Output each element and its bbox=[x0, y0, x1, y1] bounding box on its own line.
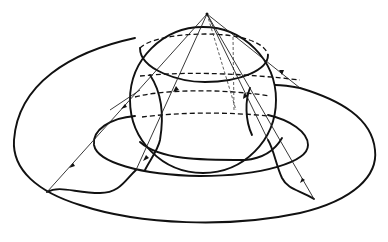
right-meridian bbox=[246, 88, 252, 135]
projection-rays bbox=[47, 14, 314, 199]
dashed-vertical-1 bbox=[233, 37, 234, 110]
north-pole-point bbox=[206, 13, 209, 16]
outer-surface-curve bbox=[14, 38, 375, 222]
dashed-vertical-2 bbox=[207, 14, 236, 110]
dashed-latitude-2 bbox=[135, 91, 270, 97]
dashed-latitude-1 bbox=[140, 73, 300, 80]
sphere-outline bbox=[130, 27, 276, 173]
left-wavy-curve bbox=[47, 170, 136, 193]
left-meridian bbox=[145, 75, 162, 170]
upper-latitude-front bbox=[140, 48, 268, 82]
upper-latitude-back bbox=[140, 34, 268, 55]
sphere-projection-diagram bbox=[0, 0, 388, 242]
inner-arc bbox=[140, 138, 282, 160]
